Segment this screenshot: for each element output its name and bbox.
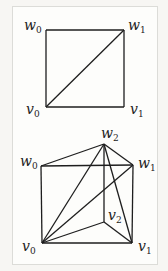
vertex-label-v2: v2	[108, 207, 122, 225]
prism-figure: w0w1w2v0v1v2	[20, 125, 156, 256]
vertex-label-w0: w0	[24, 17, 42, 35]
vertex-label-v1: v1	[130, 101, 144, 119]
vertex-label-w1: w1	[138, 155, 156, 173]
edge-w2-w1	[104, 144, 133, 165]
edge-w2-v1	[104, 144, 132, 243]
edge-w0-v0	[41, 166, 42, 243]
edge-v0-w1	[42, 165, 133, 243]
edge-v0-v2	[42, 222, 104, 243]
vertex-label-v1: v1	[138, 238, 152, 256]
edge-w1-v1	[132, 165, 133, 243]
edge-v0-w2	[42, 144, 104, 243]
edge-w0-w1	[41, 165, 133, 166]
square-figure: w0w1v0v1	[24, 17, 146, 119]
vertex-label-w0: w0	[20, 153, 38, 171]
vertex-label-v0: v0	[26, 101, 40, 119]
vertex-label-w1: w1	[128, 17, 146, 35]
vertex-label-w2: w2	[101, 125, 119, 143]
edge-v2-v1	[104, 222, 132, 243]
edge-v0-w1	[46, 30, 124, 107]
edge-w0-w2	[41, 144, 104, 166]
triangulation-diagram: w0w1v0v1 w0w1w2v0v1v2	[0, 0, 168, 271]
vertex-label-v0: v0	[22, 238, 36, 256]
